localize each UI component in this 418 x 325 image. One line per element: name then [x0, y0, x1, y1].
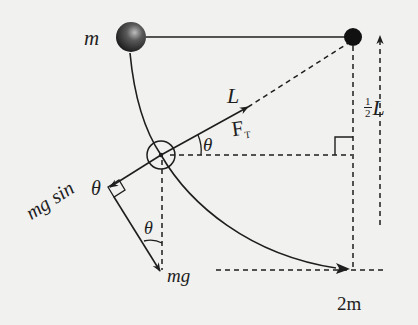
string-dashed-line — [248, 42, 350, 107]
pendulum-diagram: m L FT θ 1 2 L mg sin θ θ mg 2m — [0, 0, 418, 325]
right-angle-marker — [335, 137, 353, 155]
mass-label: m — [84, 28, 99, 49]
half-fraction: 1 2 — [364, 96, 372, 119]
theta-arc-top — [198, 135, 201, 155]
diagram-canvas — [0, 0, 418, 325]
pivot-dot — [344, 28, 362, 46]
mass-ball — [116, 22, 146, 52]
half-length-var: L — [373, 95, 385, 120]
tangential-theta-label: θ — [91, 178, 101, 198]
theta-lower-label: θ — [144, 219, 153, 237]
mass-bottom-label: 2m — [337, 294, 361, 313]
tension-symbol: F — [230, 116, 245, 141]
weight-label: mg — [167, 266, 190, 285]
weight-vector — [114, 197, 160, 271]
tension-label: FT — [230, 117, 251, 142]
bob-center-dot — [159, 153, 163, 157]
swing-path-arrowhead — [336, 263, 350, 274]
theta-top-label: θ — [203, 135, 212, 154]
length-label: L — [227, 85, 239, 107]
half-denominator: 2 — [364, 108, 372, 119]
half-length-label: 1 2 L — [364, 96, 385, 119]
theta-arc-lower — [144, 240, 162, 243]
tangential-vector — [110, 155, 161, 187]
